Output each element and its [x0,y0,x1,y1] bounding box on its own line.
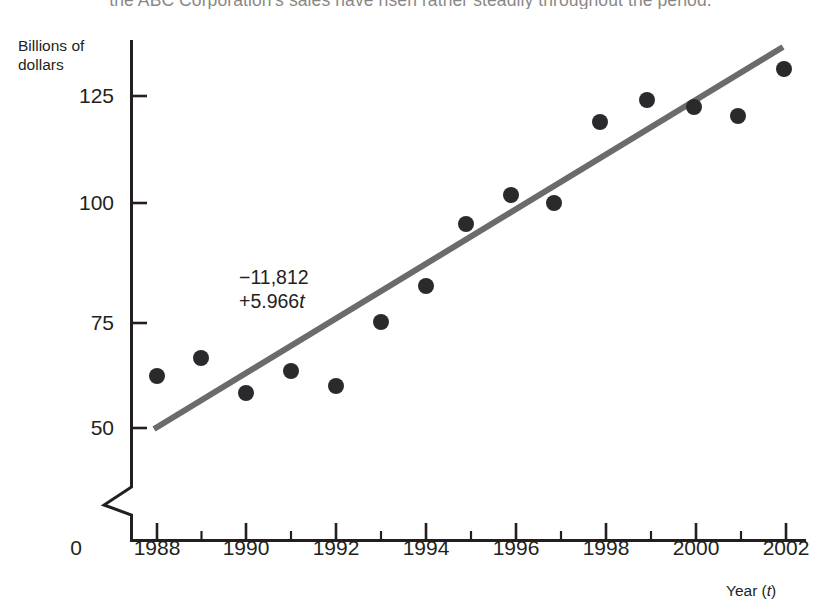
plot-area [0,0,821,614]
data-point-2002 [776,61,792,77]
x-tick-label-2000: 2000 [656,537,736,558]
data-point-1991 [283,363,299,379]
data-point-1999 [639,92,655,108]
y-tick-label-100: 100 [44,192,114,213]
data-point-2000 [686,99,702,115]
data-point-1990 [238,385,254,401]
chart-figure: the ABC Corporation's sales have risen r… [0,0,821,614]
y-tick-label-125: 125 [44,85,114,106]
x-tick-label-1998: 1998 [566,537,646,558]
data-point-1998 [592,114,608,130]
data-point-1994 [418,278,434,294]
x-tick-label-1990: 1990 [206,537,286,558]
axis-break-zigzag [104,478,132,540]
x-tick-label-2002: 2002 [746,537,821,558]
data-point-1989 [193,350,209,366]
data-point-1996 [503,187,519,203]
data-point-1995 [458,216,474,232]
x-tick-label-1988: 1988 [117,537,197,558]
data-point-1988 [149,368,165,384]
data-point-1997 [546,195,562,211]
data-point-2001 [730,108,746,124]
y-tick-label-75: 75 [44,312,114,333]
y-axis-ticks [132,96,148,428]
x-tick-label-1994: 1994 [386,537,466,558]
data-point-1992 [328,378,344,394]
scatter-points [149,61,792,401]
y-tick-label-50: 50 [44,417,114,438]
x-tick-label-1996: 1996 [476,537,556,558]
x-tick-label-1992: 1992 [296,537,376,558]
data-point-1993 [373,314,389,330]
